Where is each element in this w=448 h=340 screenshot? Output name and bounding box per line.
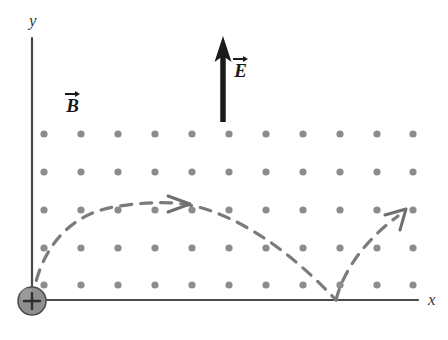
field-dot	[299, 130, 306, 137]
figure-canvas	[0, 0, 448, 340]
field-dot	[373, 206, 380, 213]
field-dot	[225, 206, 232, 213]
field-dot	[262, 206, 269, 213]
field-dot	[299, 281, 306, 288]
electric-field-arrow	[215, 36, 232, 122]
positive-charge-group	[18, 287, 46, 315]
field-dot	[151, 281, 158, 288]
field-dot	[40, 281, 47, 288]
field-dot	[151, 168, 158, 175]
vector-arrow-overbar-b	[65, 90, 80, 97]
field-dot	[225, 281, 232, 288]
field-dot	[77, 168, 84, 175]
field-dot	[262, 281, 269, 288]
field-dot	[262, 130, 269, 137]
field-dot	[151, 206, 158, 213]
field-dot	[225, 168, 232, 175]
field-dot	[336, 130, 343, 137]
field-dot	[409, 281, 416, 288]
field-dot	[336, 244, 343, 251]
field-dot	[40, 130, 47, 137]
field-dot	[188, 206, 195, 213]
field-dot	[114, 206, 121, 213]
field-dot	[188, 281, 195, 288]
field-dot	[114, 281, 121, 288]
field-dot	[262, 244, 269, 251]
field-dot	[336, 168, 343, 175]
magnetic-field-label: B	[65, 90, 80, 115]
field-dot	[409, 130, 416, 137]
field-dot	[373, 281, 380, 288]
field-dot	[40, 244, 47, 251]
field-dot	[299, 244, 306, 251]
field-dot	[188, 168, 195, 175]
field-dot	[373, 244, 380, 251]
field-dot	[225, 130, 232, 137]
x-axis-label: x	[428, 291, 436, 308]
y-axis-label: y	[29, 12, 37, 29]
field-dot	[114, 168, 121, 175]
magnetic-field-label-text: B	[65, 96, 80, 115]
field-dot	[262, 168, 269, 175]
vector-arrow-overbar-e	[233, 55, 248, 62]
field-dot	[77, 281, 84, 288]
field-dot	[77, 206, 84, 213]
trajectory-group	[32, 196, 406, 300]
field-dot	[188, 244, 195, 251]
field-dot	[299, 206, 306, 213]
field-dot	[409, 244, 416, 251]
field-dot	[409, 168, 416, 175]
field-dot	[225, 244, 232, 251]
field-dot	[77, 244, 84, 251]
field-dot	[151, 244, 158, 251]
physics-figure: y x B E	[0, 0, 448, 340]
field-dot	[77, 130, 84, 137]
field-dot	[114, 130, 121, 137]
electric-field-label-text: E	[233, 61, 248, 80]
field-dot	[373, 168, 380, 175]
electric-field-label: E	[233, 55, 248, 80]
magnetic-field-dot-grid	[40, 130, 416, 288]
field-dot	[151, 130, 158, 137]
field-dot	[336, 206, 343, 213]
field-dot	[188, 130, 195, 137]
field-dot	[409, 206, 416, 213]
field-dot	[299, 168, 306, 175]
field-dot	[114, 244, 121, 251]
field-dot	[373, 130, 380, 137]
field-dot	[40, 206, 47, 213]
field-dot	[40, 168, 47, 175]
cycloid-arch-second	[336, 216, 398, 300]
